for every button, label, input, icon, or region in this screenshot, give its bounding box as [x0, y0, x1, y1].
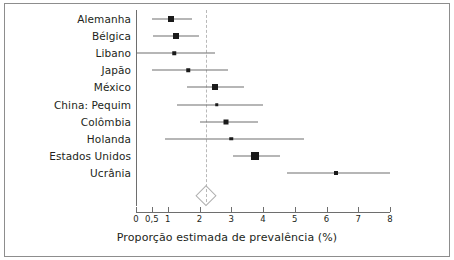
row-label: Estados Unidos: [49, 150, 131, 162]
estimate-marker: [172, 51, 176, 55]
summary-diamond: [195, 185, 217, 207]
x-axis-tick-label: 6: [324, 214, 329, 224]
x-axis-tick-label: 0: [133, 214, 138, 224]
row-label: Bélgica: [92, 30, 131, 42]
reference-line: [206, 10, 207, 202]
row-label: México: [94, 81, 131, 93]
estimate-marker: [215, 103, 219, 107]
confidence-interval-line: [287, 172, 390, 173]
estimate-marker: [230, 137, 234, 141]
row-label: China: Pequim: [54, 99, 131, 111]
x-axis-tick-label: 1: [165, 214, 170, 224]
x-axis-line: [136, 212, 390, 213]
estimate-marker: [187, 69, 191, 73]
estimate-marker: [224, 119, 229, 124]
x-axis-tick-label: 4: [260, 214, 265, 224]
estimate-marker: [212, 84, 218, 90]
row-label: Alemanha: [77, 13, 131, 25]
x-axis-tick: [231, 207, 232, 212]
x-axis-tick: [327, 207, 328, 212]
x-axis-tick: [390, 207, 391, 212]
x-axis-label: Proporção estimada de prevalência (%): [0, 231, 454, 244]
row-label: Ucrânia: [90, 167, 131, 179]
x-axis-tick-label: 7: [356, 214, 361, 224]
forest-plot-figure: AlemanhaBélgicaLibanoJapãoMéxicoChina: P…: [0, 0, 454, 260]
estimate-marker: [173, 33, 179, 39]
x-axis-tick-label: 3: [229, 214, 234, 224]
x-axis-tick: [358, 207, 359, 212]
x-axis-tick-label: 0,5: [145, 214, 159, 224]
x-axis-tick: [136, 207, 137, 212]
x-axis-tick-label: 5: [292, 214, 297, 224]
confidence-interval-line: [177, 104, 263, 105]
x-axis-tick: [295, 207, 296, 212]
x-axis-tick-label: 2: [197, 214, 202, 224]
row-label: Colômbia: [81, 116, 131, 128]
x-axis-tick: [263, 207, 264, 212]
x-axis-tick: [200, 207, 201, 212]
y-axis-line: [136, 10, 137, 206]
estimate-marker: [251, 152, 259, 160]
row-label: Holanda: [87, 133, 131, 145]
x-axis-tick-label: 8: [387, 214, 392, 224]
row-label: Japão: [101, 64, 131, 76]
estimate-marker: [168, 16, 174, 22]
estimate-marker: [334, 171, 338, 175]
plot-area: AlemanhaBélgicaLibanoJapãoMéxicoChina: P…: [0, 0, 454, 260]
row-label: Libano: [95, 47, 131, 59]
x-axis-tick: [168, 207, 169, 212]
confidence-interval-line: [165, 138, 305, 139]
x-axis-tick: [152, 207, 153, 212]
